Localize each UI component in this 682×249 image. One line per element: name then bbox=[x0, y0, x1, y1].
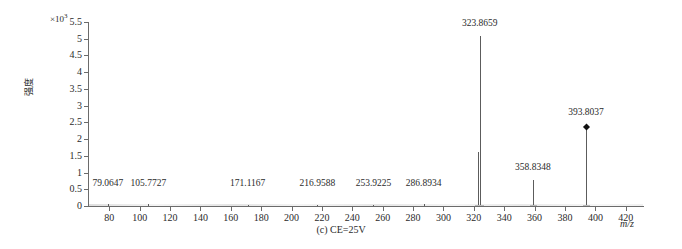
peak-label: 79.0647 bbox=[92, 178, 123, 188]
spectrum-peak bbox=[148, 204, 149, 206]
x-axis-tick-mark bbox=[170, 207, 171, 211]
y-axis-tick-label: 4 bbox=[77, 66, 82, 78]
x-axis-tick-label: 400 bbox=[588, 212, 603, 223]
peak-label: 358.8348 bbox=[515, 162, 551, 172]
spectrum-peak bbox=[480, 36, 481, 206]
x-axis-tick-mark bbox=[322, 207, 323, 211]
y-axis-tick: 5 bbox=[28, 33, 88, 45]
spectrum-peak bbox=[317, 205, 318, 206]
y-axis-tick: 0.5 bbox=[28, 183, 88, 195]
peak-base bbox=[583, 205, 590, 206]
x-axis-tick-mark bbox=[565, 207, 566, 211]
x-axis-tick-mark bbox=[292, 207, 293, 211]
x-axis-tick-label: 200 bbox=[284, 212, 299, 223]
peak-label: 253.9225 bbox=[356, 178, 392, 188]
spectrum-peak bbox=[533, 180, 534, 206]
spectrum-peak bbox=[424, 204, 425, 206]
x-axis-tick-label: 160 bbox=[223, 212, 238, 223]
spectrum-peak bbox=[373, 205, 374, 206]
y-axis-tick: 2 bbox=[28, 133, 88, 145]
x-axis-tick-mark bbox=[535, 207, 536, 211]
x-axis-tick-mark bbox=[383, 207, 384, 211]
y-axis-tick-label: 1.5 bbox=[70, 150, 83, 162]
y-axis-tick-mark bbox=[84, 173, 88, 174]
y-axis-tick-mark bbox=[84, 106, 88, 107]
peak-base bbox=[477, 205, 484, 206]
y-axis-line bbox=[88, 22, 89, 206]
y-axis-tick-mark bbox=[84, 39, 88, 40]
x-axis-tick-label: 220 bbox=[314, 212, 329, 223]
spectrum-peak bbox=[248, 205, 249, 206]
x-axis-tick-label: 140 bbox=[193, 212, 208, 223]
y-axis-tick-mark bbox=[84, 55, 88, 56]
x-axis-tick-label: 100 bbox=[132, 212, 147, 223]
y-axis-tick: 5.5 bbox=[28, 16, 88, 28]
spectrum-peak bbox=[108, 204, 109, 206]
spectrum-peak bbox=[586, 127, 587, 206]
y-axis-tick-label: 5 bbox=[77, 33, 82, 45]
x-axis-tick-mark bbox=[109, 207, 110, 211]
peak-label: 323.8659 bbox=[462, 18, 498, 28]
y-axis-tick-label: 2 bbox=[77, 133, 82, 145]
y-axis-tick: 1 bbox=[28, 167, 88, 179]
y-axis-tick-mark bbox=[84, 206, 88, 207]
y-axis-tick-label: 0 bbox=[77, 200, 82, 212]
y-axis-tick: 3.5 bbox=[28, 83, 88, 95]
x-axis-tick-mark bbox=[595, 207, 596, 211]
y-axis-tick-mark bbox=[84, 156, 88, 157]
y-axis-tick-label: 2.5 bbox=[70, 116, 83, 128]
peak-apex-marker bbox=[583, 123, 590, 130]
peak-label: 286.8934 bbox=[406, 178, 442, 188]
y-axis-tick: 1.5 bbox=[28, 150, 88, 162]
x-axis-tick-label: 280 bbox=[406, 212, 421, 223]
peak-label: 105.7727 bbox=[131, 178, 167, 188]
y-axis-tick-label: 0.5 bbox=[70, 183, 83, 195]
y-axis-tick: 4 bbox=[28, 66, 88, 78]
x-axis-tick-label: 240 bbox=[345, 212, 360, 223]
x-axis-tick-mark bbox=[352, 207, 353, 211]
peak-label: 216.9588 bbox=[300, 178, 336, 188]
figure-caption: (c) CE=25V bbox=[0, 224, 682, 235]
x-axis-tick-mark bbox=[443, 207, 444, 211]
y-axis-tick-mark bbox=[84, 89, 88, 90]
mass-spectrum-figure: ×103 强度 00.511.522.533.544.555.5 8010012… bbox=[0, 0, 682, 249]
y-axis-tick-mark bbox=[84, 72, 88, 73]
x-axis-tick-label: 300 bbox=[436, 212, 451, 223]
x-axis-tick-label: 380 bbox=[558, 212, 573, 223]
y-axis-tick-mark bbox=[84, 22, 88, 23]
y-axis-tick-label: 3 bbox=[77, 100, 82, 112]
x-axis-tick-mark bbox=[504, 207, 505, 211]
x-axis-tick-mark bbox=[413, 207, 414, 211]
peak-label: 171.1167 bbox=[230, 178, 265, 188]
plot-area: 00.511.522.533.544.555.5 801001201401601… bbox=[88, 22, 644, 206]
x-axis-tick-mark bbox=[231, 207, 232, 211]
x-axis-tick-label: 180 bbox=[254, 212, 269, 223]
spectrum-peak bbox=[478, 152, 479, 206]
peak-base bbox=[530, 205, 537, 206]
x-axis-tick-label: 260 bbox=[375, 212, 390, 223]
x-axis-line bbox=[88, 206, 644, 207]
x-axis-tick-label: 80 bbox=[104, 212, 114, 223]
y-axis-tick-mark bbox=[84, 122, 88, 123]
x-axis-tick-mark bbox=[200, 207, 201, 211]
x-axis-tick-mark bbox=[626, 207, 627, 211]
peak-label: 393.8037 bbox=[568, 107, 604, 117]
y-axis-tick-label: 1 bbox=[77, 167, 82, 179]
x-axis-tick-mark bbox=[140, 207, 141, 211]
y-axis-tick: 4.5 bbox=[28, 49, 88, 61]
y-axis-tick: 0 bbox=[28, 200, 88, 212]
x-axis-tick-mark bbox=[261, 207, 262, 211]
y-axis-tick-label: 4.5 bbox=[70, 49, 83, 61]
y-axis-tick: 2.5 bbox=[28, 116, 88, 128]
y-axis-tick-mark bbox=[84, 139, 88, 140]
x-axis-tick-label: 120 bbox=[163, 212, 178, 223]
y-axis-tick-label: 3.5 bbox=[70, 83, 83, 95]
x-axis-tick-label: 340 bbox=[497, 212, 512, 223]
x-axis-tick-label: 320 bbox=[466, 212, 481, 223]
y-axis-tick-mark bbox=[84, 189, 88, 190]
y-axis-tick-label: 5.5 bbox=[70, 16, 83, 28]
x-axis-tick-mark bbox=[474, 207, 475, 211]
y-axis-tick: 3 bbox=[28, 100, 88, 112]
baseline-noise bbox=[89, 204, 643, 206]
x-axis-tick-label: 360 bbox=[527, 212, 542, 223]
